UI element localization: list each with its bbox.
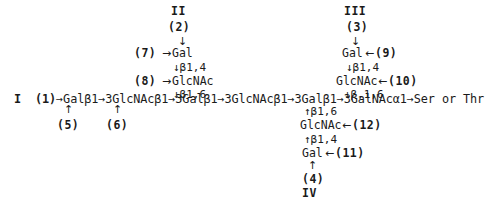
- branch-IV-linkage-b1-6: ↑β1,6: [304, 106, 337, 117]
- branch-II-connector-arrow-icon-8: →: [162, 76, 171, 87]
- branch-IV-step-4: (4): [302, 174, 324, 186]
- branch-IV-step-12: (12): [352, 120, 382, 132]
- branch-IV-label: IV: [302, 188, 317, 200]
- glycan-structure-diagram: II (2) ↓ (7) → Gal ↓β1,4 (8) → GlcNAc ↓β…: [0, 0, 499, 200]
- branch-III-step-10: (10): [388, 76, 418, 88]
- branch-III-label: III: [344, 6, 366, 18]
- step-6-up-arrow-icon: ↑: [113, 104, 122, 115]
- branch-IV-connector-arrow-icon-11: ←: [325, 148, 334, 159]
- branch-II-step-2: (2): [168, 22, 190, 34]
- branch-III-step-9: (9): [375, 48, 397, 60]
- step-5-label: (5): [57, 120, 79, 132]
- branch-IV-up-arrow-icon: ↑: [308, 160, 317, 171]
- branch-II-connector-arrow-icon-7: →: [162, 48, 171, 59]
- branch-IV-residue-glcnac: GlcNAc: [300, 120, 342, 132]
- branch-III-step-3: (3): [346, 22, 368, 34]
- branch-III-linkage-b1-4: ↓β1,4: [346, 62, 379, 73]
- branch-IV-connector-arrow-icon-12: ←: [342, 120, 351, 131]
- branch-IV-step-11: (11): [335, 148, 365, 160]
- branch-III-residue-glcnac: GlcNAc: [336, 76, 378, 88]
- branch-IV-residue-gal: Gal: [302, 148, 323, 160]
- branch-III-connector-arrow-icon-9: ←: [365, 48, 374, 59]
- branch-II-residue-glcnac: GlcNAc: [172, 76, 214, 88]
- branch-II-step-7: (7): [134, 48, 156, 60]
- step-5-up-arrow-icon: ↑: [64, 104, 73, 115]
- branch-III-residue-gal: Gal: [342, 48, 363, 60]
- branch-II-residue-gal: Gal: [172, 48, 193, 60]
- branch-II-linkage-b1-4: ↓β1,4: [173, 62, 206, 73]
- branch-III-connector-arrow-icon-10: ←: [378, 76, 387, 87]
- step-6-label: (6): [106, 120, 128, 132]
- main-chain-sequence: I (1)→Galβ1→3GlcNAcβ1→3Galβ1→3GlcNAcβ1→3…: [14, 92, 484, 106]
- main-chain-label-and-step: I (1): [14, 92, 56, 106]
- branch-II-label: II: [171, 6, 186, 18]
- branch-IV-linkage-b1-4: ↑β1,4: [304, 134, 337, 145]
- branch-II-step-8: (8): [134, 76, 156, 88]
